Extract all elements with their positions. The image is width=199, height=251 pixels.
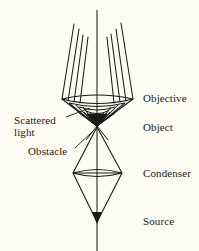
source-point-marker [92,212,102,224]
label-object: Object [143,121,173,133]
upper-ray-2 [68,29,79,101]
optics-diagram-figure: Objective Object Condenser Source Scatte… [0,0,199,251]
label-scattered-light-line2: light [14,126,35,138]
cone-right-edge-upper [97,127,122,173]
cone-left-edge-upper [73,127,97,173]
label-scattered-light: Scattered light [14,114,76,138]
upper-ray-7 [116,29,126,101]
upper-ray-8 [121,23,133,99]
label-source: Source [143,215,174,227]
label-condenser: Condenser [143,167,191,179]
label-objective: Objective [143,92,187,104]
label-scattered-light-line1: Scattered [14,114,56,126]
label-obstacle: Obstacle [28,145,67,157]
upper-ray-1 [62,24,74,99]
